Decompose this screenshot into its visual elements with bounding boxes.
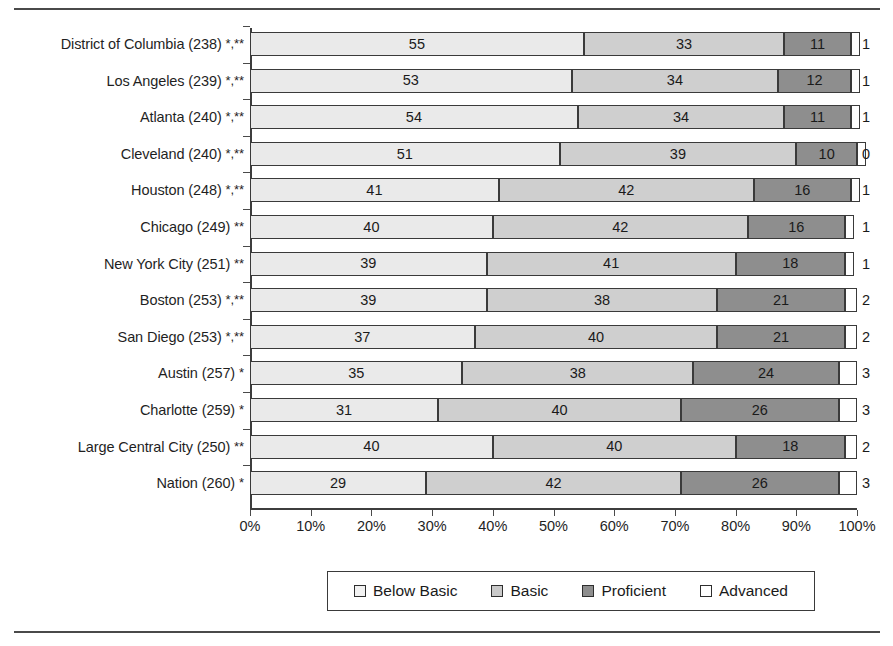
bar-segment-basic: 33 (584, 32, 784, 56)
segment-value: 26 (752, 476, 768, 491)
advanced-value-label: 3 (859, 398, 870, 422)
x-axis-tick-label: 20% (357, 518, 386, 534)
bar-segment-below: 29 (250, 471, 426, 495)
table-row: 29422633 (250, 471, 857, 495)
y-axis-tick (243, 355, 250, 356)
table-row: 55331111 (250, 32, 857, 56)
bar-segment-basic: 40 (475, 325, 718, 349)
table-row: 39382122 (250, 288, 857, 312)
advanced-value-label: 2 (859, 325, 870, 349)
bar-segment-adv: 3 (839, 398, 857, 422)
legend-label: Proficient (601, 582, 666, 600)
x-axis-tick-label: 60% (600, 518, 629, 534)
x-axis-tick (614, 510, 615, 516)
advanced-value-label: 1 (859, 252, 870, 276)
bar-segment-below: 39 (250, 288, 487, 312)
category-label: Boston (253) *,** (0, 288, 244, 312)
x-axis-tick-label: 80% (721, 518, 750, 534)
x-axis-tick (796, 510, 797, 516)
chart-legend: Below BasicBasicProficientAdvanced (327, 571, 815, 611)
advanced-value-label: 1 (859, 69, 870, 93)
segment-value: 41 (603, 256, 619, 271)
bar-segment-basic: 38 (487, 288, 718, 312)
bar-segment-below: 53 (250, 69, 572, 93)
bar-segment-adv: 1 (845, 252, 854, 276)
bar-segment-basic: 41 (487, 252, 736, 276)
bar-segment-below: 40 (250, 215, 493, 239)
segment-value: 38 (594, 293, 610, 308)
bar-segment-adv: 3 (839, 471, 857, 495)
bar-segment-basic: 42 (493, 215, 748, 239)
segment-value: 39 (360, 293, 376, 308)
advanced-value-label: 3 (859, 471, 870, 495)
category-label: Houston (248) *,** (0, 178, 244, 202)
bar-segment-below: 41 (250, 178, 499, 202)
segment-value: 33 (676, 37, 692, 52)
bar-segment-prof: 12 (778, 69, 851, 93)
category-label: Chicago (249) ** (0, 215, 244, 239)
legend-label: Advanced (719, 582, 788, 600)
table-row: 40401822 (250, 435, 857, 459)
bar-segment-below: 54 (250, 105, 578, 129)
x-axis-tick (857, 510, 858, 516)
segment-value: 34 (667, 73, 683, 88)
bar-segment-below: 51 (250, 142, 560, 166)
legend-item-below: Below Basic (354, 582, 457, 600)
x-axis-tick (554, 510, 555, 516)
bar-segment-prof: 26 (681, 471, 839, 495)
advanced-value-label: 1 (859, 105, 870, 129)
segment-value: 11 (810, 37, 825, 52)
bar-segment-prof: 11 (784, 32, 851, 56)
x-axis-tick-label: 0% (240, 518, 261, 534)
segment-value: 37 (354, 330, 370, 345)
table-row: 53341211 (250, 69, 857, 93)
segment-value: 18 (782, 439, 798, 454)
segment-value: 42 (545, 476, 561, 491)
category-label: Atlanta (240) *,** (0, 105, 244, 129)
legend-item-adv: Advanced (700, 582, 788, 600)
y-axis-tick (243, 63, 250, 64)
table-row: 51391000 (250, 142, 857, 166)
bar-segment-below: 31 (250, 398, 438, 422)
category-label: New York City (251) ** (0, 252, 244, 276)
category-label: Los Angeles (239) *,** (0, 69, 244, 93)
y-axis-tick (243, 136, 250, 137)
x-axis-tick (736, 510, 737, 516)
y-axis-tick (243, 246, 250, 247)
bar-segment-below: 39 (250, 252, 487, 276)
x-axis-tick-label: 90% (782, 518, 811, 534)
segment-value: 10 (819, 147, 835, 162)
segment-value: 40 (363, 220, 379, 235)
category-label: Charlotte (259) * (0, 398, 244, 422)
segment-value: 11 (810, 110, 825, 125)
segment-value: 31 (336, 403, 352, 418)
segment-value: 16 (788, 220, 804, 235)
category-label: San Diego (253) *,** (0, 325, 244, 349)
bar-segment-below: 55 (250, 32, 584, 56)
segment-value: 40 (606, 439, 622, 454)
bar-segment-basic: 42 (499, 178, 754, 202)
bar-segment-below: 35 (250, 361, 462, 385)
bar-segment-adv: 2 (845, 288, 857, 312)
segment-value: 18 (782, 256, 798, 271)
bar-segment-basic: 40 (493, 435, 736, 459)
category-label: Austin (257) * (0, 361, 244, 385)
x-axis-tick (371, 510, 372, 516)
segment-value: 54 (406, 110, 422, 125)
segment-value: 24 (758, 366, 774, 381)
legend-label: Below Basic (373, 582, 457, 600)
x-axis-tick (493, 510, 494, 516)
bar-segment-basic: 39 (560, 142, 797, 166)
segment-value: 38 (570, 366, 586, 381)
segment-value: 40 (363, 439, 379, 454)
segment-value: 26 (752, 403, 768, 418)
bar-segment-prof: 21 (717, 325, 844, 349)
bar-segment-adv: 2 (845, 435, 857, 459)
y-axis-tick (243, 319, 250, 320)
bar-segment-basic: 38 (462, 361, 693, 385)
table-row: 41421611 (250, 178, 857, 202)
segment-value: 51 (397, 147, 413, 162)
bar-segment-prof: 16 (754, 178, 851, 202)
bar-segment-adv: 2 (845, 325, 857, 349)
segment-value: 16 (794, 183, 810, 198)
